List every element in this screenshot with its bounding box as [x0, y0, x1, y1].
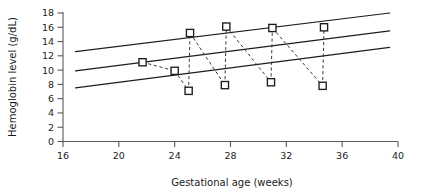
upper-reference-line — [76, 13, 390, 52]
data-point-marker — [139, 59, 146, 66]
data-point-marker — [269, 24, 276, 31]
y-axis-tick-label: 10 — [42, 65, 54, 76]
x-axis-title: Gestational age (weeks) — [171, 177, 293, 188]
x-axis-tick-labels: 16202428323640 — [57, 150, 404, 161]
y-axis-title: Hemoglobin level (g/dL) — [7, 17, 18, 137]
x-axis-tick-label: 28 — [224, 150, 236, 161]
series-segment — [226, 27, 271, 83]
data-point-marker — [186, 29, 193, 36]
data-point-marker — [221, 82, 228, 89]
data-point-marker — [319, 82, 326, 89]
series-segment — [271, 28, 272, 82]
reference-line-group — [76, 13, 390, 88]
y-axis-tick-label: 12 — [42, 50, 54, 61]
series-segment — [190, 33, 225, 85]
y-axis-tick-label: 6 — [48, 93, 54, 104]
series-segment — [225, 27, 226, 86]
data-point-marker — [171, 67, 178, 74]
x-axis-tick-label: 20 — [113, 150, 125, 161]
hemoglobin-gestational-age-chart: 024681012141618 16202428323640 Gestation… — [0, 0, 421, 193]
data-point-marker — [223, 23, 230, 30]
y-axis-tick-label: 18 — [42, 7, 54, 18]
x-axis-tick-label: 36 — [336, 150, 348, 161]
y-axis-tick-label: 2 — [48, 122, 54, 133]
y-axis-tick-label: 14 — [42, 36, 54, 47]
y-axis-tick-label: 0 — [48, 136, 54, 147]
series-segment — [189, 33, 190, 91]
series-segment — [143, 62, 175, 71]
middle-reference-line — [76, 31, 390, 71]
lower-reference-line — [76, 47, 390, 88]
x-axis-tick-group — [63, 142, 398, 148]
x-axis-tick-label: 24 — [169, 150, 181, 161]
data-point-marker — [185, 87, 192, 94]
series-segment — [323, 27, 324, 86]
y-axis-tick-labels: 024681012141618 — [42, 7, 54, 147]
x-axis-tick-label: 40 — [392, 150, 404, 161]
y-axis-tick-group — [58, 13, 64, 142]
y-axis-tick-label: 8 — [48, 79, 54, 90]
x-axis-tick-label: 32 — [280, 150, 292, 161]
y-axis-tick-label: 16 — [42, 22, 54, 33]
x-axis-tick-label: 16 — [57, 150, 69, 161]
chart-figure: 024681012141618 16202428323640 Gestation… — [0, 0, 421, 193]
y-axis-tick-label: 4 — [48, 107, 54, 118]
data-point-marker — [320, 24, 327, 31]
data-point-marker — [267, 79, 274, 86]
